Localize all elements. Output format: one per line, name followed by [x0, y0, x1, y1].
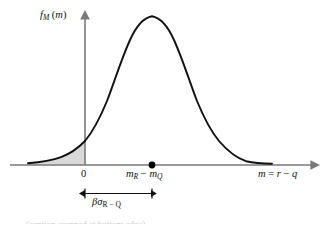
x-axis-label-minus: − [281, 168, 292, 179]
figure-container: fM (m) 0 mR − mQ m = r − q βσR − Q (capt… [0, 0, 328, 225]
beta-sigma-bracket-label: βσR − Q [92, 197, 121, 209]
figure-caption-cropped: (caption cropped at bottom edge) [26, 219, 284, 224]
shaded-tail-region [28, 141, 85, 165]
x-axis-label-q: q [292, 168, 297, 179]
x-tick-label-zero: 0 [81, 169, 86, 180]
mean-label-m1: m [126, 168, 134, 179]
x-axis-label-m: m [258, 168, 266, 179]
x-axis-label: m = r − q [258, 169, 297, 180]
y-axis-label: fM (m) [40, 10, 66, 22]
mean-label-minus: − [138, 168, 149, 179]
bracket-label-subscript: R − Q [102, 200, 121, 209]
density-curve [28, 16, 272, 164]
mean-label-sub2: Q [157, 172, 162, 181]
distribution-plot [0, 0, 328, 225]
y-axis-label-paren-close: ) [63, 9, 67, 20]
x-axis-label-equals: = [266, 168, 277, 179]
x-tick-label-mean: mR − mQ [126, 169, 162, 181]
mean-label-m2: m [149, 168, 157, 179]
y-axis-label-arg: m [55, 9, 63, 20]
